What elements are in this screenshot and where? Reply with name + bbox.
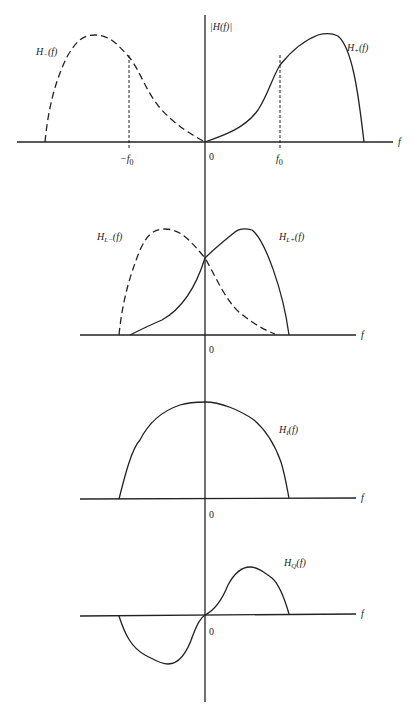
origin-label: 0 <box>209 509 214 520</box>
panel-3: f 0 HI(f) <box>80 402 365 520</box>
hl-plus-curve <box>130 229 289 335</box>
x-axis-label: f <box>361 608 365 619</box>
hl-plus-label: HL+(f) <box>278 231 305 244</box>
x-axis <box>80 498 356 499</box>
x-axis-label: f <box>398 136 402 147</box>
h-plus-curve <box>205 34 364 142</box>
pos-f0-tick-label: f0 <box>276 153 283 167</box>
panel-1: f 0 −f0 f0 H−(f) H+(f) <box>17 34 402 167</box>
origin-label: 0 <box>209 151 214 162</box>
h-minus-curve <box>45 35 205 142</box>
panel-4: f 0 HQ(f) <box>80 557 365 664</box>
x-axis-label: f <box>361 492 365 503</box>
x-axis-label: f <box>361 329 365 340</box>
origin-label: 0 <box>209 626 214 637</box>
spectrum-diagram: |H(f)| f 0 −f0 f0 H−(f) H+(f) f 0 HL−(f)… <box>0 0 413 714</box>
h-plus-label: H+(f) <box>346 42 369 55</box>
origin-label: 0 <box>209 344 214 355</box>
hi-label: HI(f) <box>278 424 299 437</box>
hl-minus-label: HL−(f) <box>96 231 123 244</box>
hq-label: HQ(f) <box>283 557 306 570</box>
hi-curve <box>119 402 289 499</box>
hl-minus-curve <box>119 229 275 335</box>
h-minus-label: H−(f) <box>35 46 58 59</box>
x-axis <box>80 614 356 616</box>
panel-2: f 0 HL−(f) HL+(f) <box>80 229 365 355</box>
y-axis-label: |H(f)| <box>210 21 232 33</box>
neg-f0-tick-label: −f0 <box>120 153 134 167</box>
